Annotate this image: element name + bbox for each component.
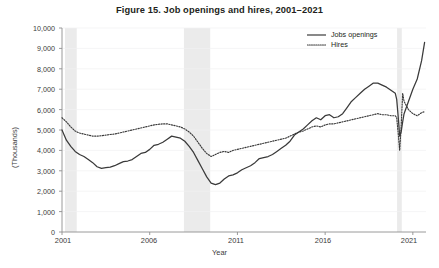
plot-area [0, 0, 439, 268]
figure-container: Figure 15. Job openings and hires, 2001–… [0, 0, 439, 268]
series-line-job-openings [62, 42, 425, 184]
gridlines-group [62, 28, 426, 212]
series-line-hires [62, 93, 425, 156]
axis-ticks-group [59, 28, 413, 235]
